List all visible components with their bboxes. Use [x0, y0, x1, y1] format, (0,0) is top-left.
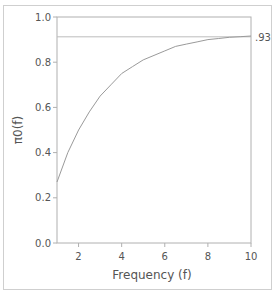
y-tick-label: 0.0: [35, 238, 51, 249]
y-tick-label: 0.8: [35, 57, 51, 68]
x-axis-ticks: 246810: [75, 243, 257, 262]
reference-line-label: .93: [255, 32, 271, 43]
x-tick-label: 2: [75, 251, 81, 262]
x-tick-label: 6: [162, 251, 168, 262]
y-tick-label: 1.0: [35, 12, 51, 23]
x-tick-label: 10: [245, 251, 258, 262]
plot-background: [57, 17, 251, 243]
x-tick-label: 4: [118, 251, 124, 262]
x-tick-label: 8: [205, 251, 211, 262]
y-tick-label: 0.2: [35, 192, 51, 203]
y-tick-label: 0.4: [35, 147, 51, 158]
line-chart: 0.00.20.40.60.81.0 246810 .93 Frequency …: [0, 0, 277, 295]
x-axis-title: Frequency (f): [112, 268, 191, 282]
plot-area: 0.00.20.40.60.81.0 246810 .93: [35, 12, 271, 263]
y-axis-ticks: 0.00.20.40.60.81.0: [35, 12, 57, 249]
y-axis-title: π0(f): [11, 116, 25, 144]
y-tick-label: 0.6: [35, 102, 51, 113]
